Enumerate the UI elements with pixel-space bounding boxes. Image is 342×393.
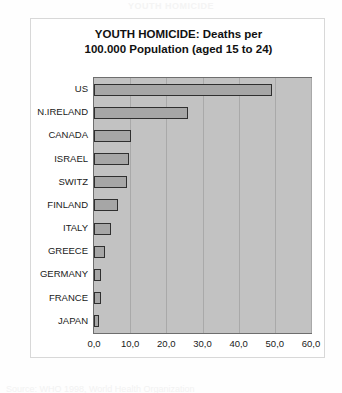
chart-card: YOUTH HOMICIDE: Deaths per 100.000 Popul…: [30, 18, 325, 358]
bar: [94, 107, 188, 119]
chart-page: YOUTH HOMICIDE YOUTH HOMICIDE: Deaths pe…: [0, 0, 342, 393]
bar: [94, 223, 111, 235]
value-tick-label: 40,0: [229, 338, 248, 349]
value-tick-label: 0,0: [87, 338, 100, 349]
bar-row: [94, 217, 311, 240]
value-tick-label: 50,0: [266, 338, 285, 349]
bar-row: [94, 194, 311, 217]
value-tick-label: 30,0: [193, 338, 212, 349]
plot-area: [93, 77, 312, 334]
category-label: ITALY: [31, 216, 91, 239]
category-label: CANADA: [31, 123, 91, 146]
value-axis-labels: 0,010,020,030,040,050,060,0: [93, 338, 312, 354]
value-tick-label: 20,0: [157, 338, 176, 349]
bar-row: [94, 240, 311, 263]
category-label: FINLAND: [31, 193, 91, 216]
category-axis-labels: USN.IRELANDCANADAISRAELSWITZFINLANDITALY…: [31, 77, 91, 334]
category-label: FRANCE: [31, 286, 91, 309]
bar: [94, 176, 127, 188]
category-label: JAPAN: [31, 309, 91, 332]
gridline: [311, 78, 312, 333]
category-label: N.IRELAND: [31, 100, 91, 123]
bar-row: [94, 171, 311, 194]
bar: [94, 130, 131, 142]
clipped-header-text: YOUTH HOMICIDE: [0, 0, 342, 12]
bar-rows: [94, 78, 311, 333]
bar-row: [94, 78, 311, 101]
bar-row: [94, 148, 311, 171]
category-label: SWITZ: [31, 170, 91, 193]
bar-row: [94, 263, 311, 286]
bar: [94, 292, 101, 304]
bar: [94, 246, 105, 258]
bar-row: [94, 124, 311, 147]
value-tick-label: 60,0: [302, 338, 321, 349]
bar: [94, 84, 272, 96]
bar-chart: USN.IRELANDCANADAISRAELSWITZFINLANDITALY…: [31, 19, 326, 359]
bar: [94, 315, 99, 327]
bar: [94, 269, 101, 281]
value-tick-label: 10,0: [121, 338, 140, 349]
bar: [94, 199, 118, 211]
clipped-source-caption: Source: WHO 1998, World Health Organizat…: [6, 384, 342, 393]
bar: [94, 153, 129, 165]
category-label: US: [31, 77, 91, 100]
category-label: ISRAEL: [31, 147, 91, 170]
category-label: GERMANY: [31, 262, 91, 285]
category-label: GREECE: [31, 239, 91, 262]
bar-row: [94, 310, 311, 333]
bar-row: [94, 287, 311, 310]
bar-row: [94, 101, 311, 124]
